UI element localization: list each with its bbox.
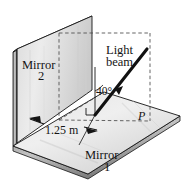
- light-beam-label-line2: beam: [106, 55, 133, 69]
- point-p-label: P: [137, 109, 146, 123]
- distance-label: 1.25 m: [45, 123, 79, 137]
- mirror-2-label-line2: 2: [38, 69, 44, 83]
- optics-diagram-figure: Mirror 2 Light beam 40° 1.25 m Mirror 1 …: [0, 0, 190, 189]
- mirror-2-thickness: [13, 49, 17, 146]
- angle-label: 40°: [96, 85, 113, 97]
- mirror-1-label-line2: 1: [104, 160, 110, 174]
- mirror-1-label-line1: Mirror: [85, 148, 119, 162]
- diagram-canvas: Mirror 2 Light beam 40° 1.25 m Mirror 1 …: [0, 0, 190, 189]
